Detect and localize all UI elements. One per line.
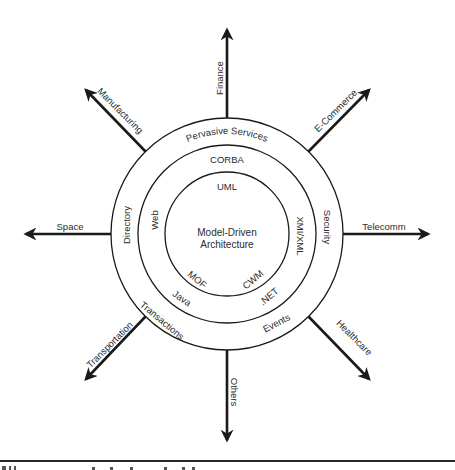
spoke-label-healthcare: Healthcare [334,317,374,357]
center-label-line2: Architecture [200,239,254,250]
spoke-label-manufacturing: Manufacturing [95,85,145,135]
clipped-caption-fragments [2,466,195,470]
spoke-label-others: Others [229,378,240,407]
outer-label-security: Security [322,210,333,245]
spoke-label-transportation: Transportation [84,319,135,370]
mda-diagram: Model-Driven Architecture UML XMI/XML CW… [0,0,455,470]
spoke-label-finance: Finance [214,61,225,95]
center-label-line1: Model-Driven [197,227,256,238]
spoke-label-space: Space [57,221,84,232]
spoke-label-ecommerce: E-Commerce [312,87,359,134]
middle-label-web: Web [149,210,160,229]
outer-label-directory: Directory [121,206,132,244]
inner-label-uml: UML [217,181,237,192]
inner-label-xmi-xml: XMI/XML [295,216,306,255]
middle-label-corba: CORBA [210,154,244,165]
spoke-label-telecomm: Telecomm [362,221,405,232]
spoke-transportation-arrow [86,316,146,379]
